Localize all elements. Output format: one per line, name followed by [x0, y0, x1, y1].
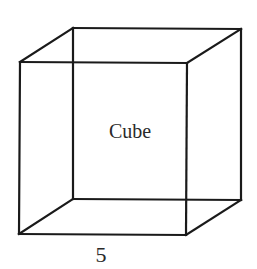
cube-diagram: Cube 5	[0, 0, 257, 269]
edge-back-top	[73, 28, 241, 29]
edge-back-bottom	[73, 199, 241, 200]
edge-connect-bottom-left	[19, 199, 73, 234]
edge-front-top	[20, 62, 187, 63]
edge-front-left	[19, 62, 20, 234]
edge-front-bottom	[19, 234, 186, 235]
edge-front-right	[186, 63, 187, 235]
edge-connect-bottom-right	[186, 200, 241, 235]
edge-connect-top-right	[187, 29, 241, 63]
shape-label: Cube	[109, 120, 151, 142]
edge-connect-top-left	[20, 28, 73, 62]
edge-length-label: 5	[96, 242, 107, 267]
